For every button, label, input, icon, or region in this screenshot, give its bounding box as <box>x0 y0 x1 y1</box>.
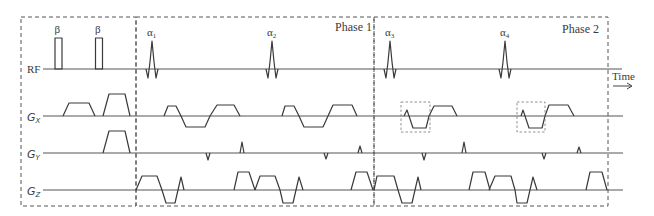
gx-waveforms <box>63 94 574 132</box>
alpha2-label: α2 <box>267 26 277 40</box>
prep-phase-box <box>21 17 136 206</box>
gy-label-sub: Y <box>36 154 41 162</box>
gx-row-label: GX <box>27 111 41 125</box>
gy-row-label: GY <box>27 148 41 162</box>
phase1-label: Phase 1 <box>335 20 372 34</box>
beta-pulse-2 <box>96 38 103 69</box>
alpha4-label: α4 <box>500 26 510 40</box>
phase2-box <box>374 17 608 206</box>
alpha1-label-sub: 1 <box>153 32 157 40</box>
alpha2-label-sub: 2 <box>273 32 277 40</box>
gz-phase2-spoiler-a <box>469 172 490 190</box>
phase-boxes <box>21 17 608 206</box>
pulse-sequence-diagram: Phase 1 Phase 2 RF GX GY GZ β β α1 α2 α3… <box>0 0 654 216</box>
beta-pulse-1 <box>55 38 62 69</box>
gy-phase-blip-6 <box>462 142 466 153</box>
rf-pulses: β β α1 α2 α3 α4 <box>55 23 512 78</box>
gz-label-main: G <box>27 185 36 198</box>
beta-label-1: β <box>55 23 61 35</box>
gy-phase-blip-7 <box>542 153 546 159</box>
gy-waveforms <box>103 131 581 160</box>
alpha4-sinc-pulse <box>499 41 511 78</box>
alpha1-sinc-pulse <box>146 41 158 78</box>
rf-row-label: RF <box>27 63 40 75</box>
gx-label-main: G <box>27 111 36 124</box>
gy-prep-trapezoid <box>103 131 130 153</box>
gz-phase2-spoiler-b <box>586 172 607 190</box>
gz-waveforms <box>136 172 607 203</box>
phase1-box <box>136 17 374 206</box>
gy-phase-blip-2 <box>240 142 244 153</box>
gy-phase-blip-5 <box>422 153 426 160</box>
beta-label-2: β <box>95 23 101 35</box>
alpha4-label-sub: 4 <box>506 32 510 40</box>
phase2-label: Phase 2 <box>562 22 599 36</box>
gz-label-sub: Z <box>35 191 41 199</box>
time-axis-label: Time <box>612 70 635 82</box>
gy-phase-blip-8 <box>577 147 581 153</box>
time-arrow-icon <box>613 83 632 89</box>
gz-row-label: GZ <box>27 185 41 199</box>
gy-phase-blip-3 <box>324 153 328 159</box>
gx-prep-trapezoid-1 <box>63 103 95 116</box>
gy-label-main: G <box>27 148 36 161</box>
gz-phase1-spoiler-a <box>234 172 255 190</box>
gy-phase-blip-1 <box>206 153 210 160</box>
alpha3-label-sub: 3 <box>391 32 395 40</box>
alpha2-sinc-pulse <box>266 41 278 78</box>
alpha1-label: α1 <box>147 26 157 40</box>
alpha3-sinc-pulse <box>384 41 396 78</box>
gx-label-sub: X <box>35 117 41 125</box>
gx-phase2-readout-a <box>404 106 457 128</box>
alpha3-label: α3 <box>385 26 395 40</box>
gy-phase-blip-4 <box>358 146 362 153</box>
gz-phase1-spoiler-b <box>351 172 373 190</box>
gx-prep-trapezoid-2 <box>103 94 130 116</box>
